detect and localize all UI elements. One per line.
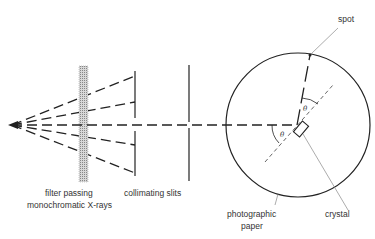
diffracted-angle-arc	[302, 98, 318, 104]
ray-1	[12, 76, 135, 125]
slits-label: collimating slits	[124, 188, 181, 198]
filter	[79, 66, 88, 182]
angle-diffracted-label: θ	[303, 105, 308, 113]
crystal	[293, 121, 308, 137]
ray-4	[12, 125, 135, 145]
spot-label: spot	[338, 14, 355, 24]
crystal-leader	[303, 134, 348, 210]
filter-label-line2: monochromatic X-rays	[27, 200, 112, 210]
paper-label-line2: paper	[241, 221, 263, 231]
paper-leader	[275, 194, 278, 205]
angle-incident-label: θ	[280, 131, 285, 139]
incident-angle-arc	[272, 125, 279, 143]
spot-leader	[311, 28, 338, 54]
ray-2	[12, 102, 135, 125]
crystal-plane-line	[265, 85, 333, 162]
paper-label-line1: photographic	[227, 209, 277, 219]
crystal-label: crystal	[325, 209, 350, 219]
diffraction-diagram: θ θ spot filter passing monochromatic X-…	[0, 0, 375, 239]
filter-label-line1: filter passing	[45, 188, 93, 198]
ray-5	[12, 125, 135, 173]
diffracted-beam	[297, 55, 310, 125]
